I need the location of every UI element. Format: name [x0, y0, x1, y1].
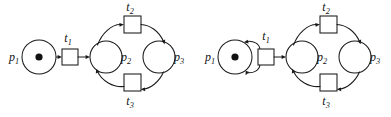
label-t2: t2 [322, 0, 329, 16]
token-p1 [231, 53, 238, 60]
transition-t2[interactable] [320, 16, 337, 33]
label-t3: t3 [322, 94, 329, 110]
arrowhead-t1-p2 [282, 55, 286, 59]
label-t1: t1 [64, 31, 71, 47]
arrowhead-p2-t2 [315, 23, 320, 27]
petri-net-figure: p1 p2 p3 t1 t2 t3 [0, 0, 391, 117]
place-p2[interactable] [286, 41, 318, 73]
place-p3[interactable] [339, 41, 371, 73]
transition-t3[interactable] [320, 74, 337, 91]
label-p1: p1 [8, 50, 19, 66]
arc-t3-p2 [98, 72, 125, 87]
arrowhead-t1-p2 [86, 55, 90, 59]
arc-t2-p3 [141, 25, 164, 42]
token-p1 [35, 53, 42, 60]
arc-t2-p3 [337, 25, 360, 42]
petri-net-canvas: p1 p2 p3 t1 t2 t3 [0, 0, 391, 117]
arc-p3-t3 [340, 72, 360, 89]
label-t1: t1 [262, 29, 269, 45]
label-p1: p1 [204, 50, 215, 66]
label-p3: p3 [173, 50, 184, 66]
label-t3: t3 [126, 94, 133, 110]
petri-net-left: p1 p2 p3 t1 t2 t3 [8, 0, 184, 110]
label-p3: p3 [369, 50, 380, 66]
place-p3[interactable] [143, 41, 175, 73]
transition-t1[interactable] [258, 49, 274, 65]
arc-t3-p2 [294, 72, 321, 87]
arc-p3-t3 [144, 72, 164, 89]
arrowhead-p1-t1 [58, 55, 62, 59]
label-t2: t2 [126, 0, 133, 16]
label-p2: p2 [120, 50, 131, 66]
transition-t3[interactable] [124, 74, 141, 91]
transition-t2[interactable] [124, 16, 141, 33]
place-p2[interactable] [90, 41, 122, 73]
transition-t1[interactable] [62, 49, 78, 65]
arrowhead-p2-t2 [119, 23, 124, 27]
label-p2: p2 [316, 50, 327, 66]
petri-net-right: p1 p2 p3 t1 t2 t3 [204, 0, 380, 110]
